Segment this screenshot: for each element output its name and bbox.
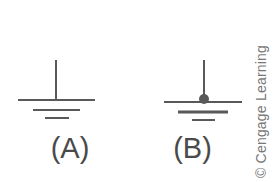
copyright-text: © Cengage Learning [254, 45, 268, 178]
figure-canvas: (A) (B) © Cengage Learning [0, 0, 277, 182]
connection-node-dot [199, 94, 209, 104]
earth-ground-symbol [0, 52, 140, 124]
earth-ground-symbol-with-node [140, 52, 245, 124]
attribution-strip: © Cengage Learning [245, 0, 277, 182]
figure-panel-b: (B) [140, 0, 245, 182]
panel-a-label: (A) [0, 130, 140, 166]
figure-panel-a: (A) [0, 0, 140, 182]
panel-b-label: (B) [140, 130, 245, 166]
